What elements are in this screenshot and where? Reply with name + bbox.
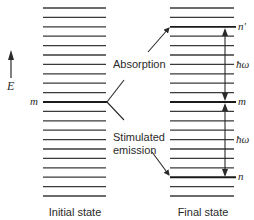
stimulated-label-line2: emission [113,144,156,156]
diagram-graphics [0,0,254,220]
initial-level-m-label: m [30,95,38,107]
upper-gap-hbar-omega-label: ħω [236,58,249,70]
absorption-branch-line [107,80,124,102]
initial-state-caption: Initial state [40,206,110,218]
energy-axis-arrow-icon [8,50,14,78]
final-level-m-label: m [238,95,246,107]
energy-axis-label: E [7,80,14,92]
final-level-n-prime-label: n' [238,20,246,32]
stimulated-label-line1: Stimulated [113,131,165,143]
final-state-caption: Final state [168,206,238,218]
energy-level-diagram: E m Absorption Stimulated emission n' m … [0,0,254,220]
absorption-arrow-icon [148,28,169,52]
lower-gap-hbar-omega-label: ħω [236,133,249,145]
emission-branch-line [107,102,124,120]
absorption-label: Absorption [113,58,166,70]
final-level-n-label: n [238,170,244,182]
